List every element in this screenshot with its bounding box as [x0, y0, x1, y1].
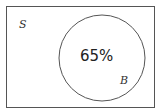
set-b-value: 65% [80, 47, 113, 65]
universe-label: S [19, 18, 27, 31]
set-b-label: B [119, 74, 128, 87]
venn-diagram: S B 65% [0, 0, 162, 112]
